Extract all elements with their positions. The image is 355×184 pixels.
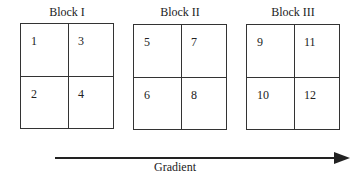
gradient-arrow-icon bbox=[0, 0, 355, 184]
gradient-label: Gradient bbox=[145, 160, 205, 175]
